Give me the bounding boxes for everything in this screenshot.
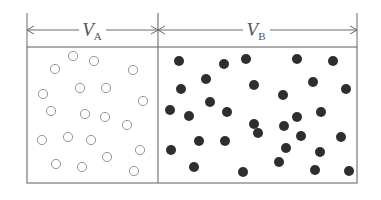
filled-particle-icon xyxy=(344,166,354,176)
filled-particle-icon xyxy=(194,136,204,146)
filled-particle-icon xyxy=(220,136,230,146)
hollow-particle-icon xyxy=(89,56,98,65)
filled-particle-icon xyxy=(165,105,175,115)
hollow-particle-icon xyxy=(38,89,47,98)
filled-particle-icon xyxy=(292,54,302,64)
filled-particle-icon xyxy=(241,54,251,64)
filled-particle-icon xyxy=(201,74,211,84)
hollow-particle-icon xyxy=(122,120,131,129)
label-volume-a: VA xyxy=(82,19,102,42)
volume-dimension-lines xyxy=(27,26,357,34)
filled-particle-icon xyxy=(189,162,199,172)
hollow-particle-icon xyxy=(51,159,60,168)
hollow-particle-icon xyxy=(80,109,89,118)
filled-particle-icon xyxy=(249,80,259,90)
filled-particle-icon xyxy=(341,84,351,94)
filled-particle-icon xyxy=(184,111,194,121)
hollow-particle-icon xyxy=(75,83,84,92)
filled-particle-icon xyxy=(281,143,291,153)
filled-particle-icon xyxy=(222,107,232,117)
filled-particle-icon xyxy=(308,77,318,87)
filled-particle-icon xyxy=(205,97,215,107)
filled-particle-icon xyxy=(328,56,338,66)
hollow-particle-icon xyxy=(37,135,46,144)
hollow-particle-icon xyxy=(46,106,55,115)
hollow-particle-icon xyxy=(101,83,110,92)
hollow-particle-icon xyxy=(102,152,111,161)
filled-particle-icon xyxy=(274,157,284,167)
filled-particle-icon xyxy=(219,59,229,69)
filled-particle-icon xyxy=(238,167,248,177)
label-a-subscript: A xyxy=(94,30,102,42)
filled-particle-icon xyxy=(336,132,346,142)
filled-particle-icon xyxy=(279,121,289,131)
hollow-particle-icon xyxy=(100,112,109,121)
filled-particle-icon xyxy=(176,84,186,94)
filled-particle-icon xyxy=(278,90,288,100)
label-b-subscript: B xyxy=(258,30,265,42)
filled-particle-icon xyxy=(315,147,325,157)
hollow-particle-icon xyxy=(63,132,72,141)
filled-particle-icon xyxy=(174,56,184,66)
hollow-particle-icon xyxy=(77,162,86,171)
filled-particle-icon xyxy=(296,131,306,141)
hollow-particle-icon xyxy=(129,166,138,175)
label-volume-b: VB xyxy=(247,19,266,42)
filled-particle-icon xyxy=(316,107,326,117)
container-frame xyxy=(27,13,357,183)
compartment-b-particles xyxy=(165,54,354,177)
filled-particle-icon xyxy=(292,112,302,122)
hollow-particle-icon xyxy=(86,135,95,144)
filled-particle-icon xyxy=(166,145,176,155)
hollow-particle-icon xyxy=(68,51,77,60)
filled-particle-icon xyxy=(253,128,263,138)
filled-particle-icon xyxy=(310,165,320,175)
hollow-particle-icon xyxy=(50,64,59,73)
hollow-particle-icon xyxy=(128,65,137,74)
gas-compartments-diagram: VA VB xyxy=(0,0,381,200)
hollow-particle-icon xyxy=(138,96,147,105)
hollow-particle-icon xyxy=(135,145,144,154)
filled-particle-icon xyxy=(249,119,259,129)
compartment-a-particles xyxy=(37,51,147,175)
